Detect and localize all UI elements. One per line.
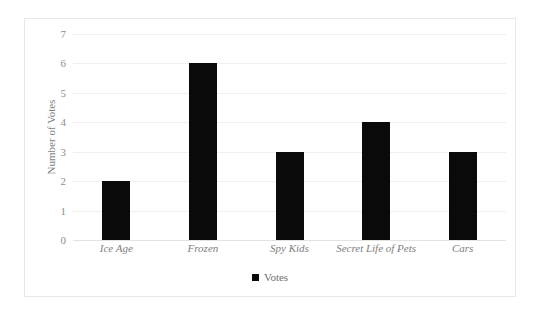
bar[interactable] bbox=[102, 181, 130, 240]
x-axis-category-labels: Ice AgeFrozenSpy KidsSecret Life of Pets… bbox=[73, 242, 506, 262]
y-axis-tick-label: 1 bbox=[61, 205, 67, 217]
y-axis-tick-label: 2 bbox=[61, 175, 67, 187]
gridline bbox=[73, 240, 506, 241]
bar[interactable] bbox=[189, 63, 217, 240]
y-axis-title: Number of Votes bbox=[41, 34, 61, 240]
x-axis-category-label: Cars bbox=[452, 242, 473, 254]
x-axis-category-label: Spy Kids bbox=[270, 242, 309, 254]
plot-area: 76543210 bbox=[73, 34, 506, 240]
bar-series-votes bbox=[73, 34, 506, 240]
bar[interactable] bbox=[276, 152, 304, 240]
y-axis-tick-label: 4 bbox=[61, 116, 67, 128]
x-axis-category-label: Ice Age bbox=[100, 242, 133, 254]
y-axis-title-label: Number of Votes bbox=[45, 100, 57, 175]
chart-container: Number of Votes 76543210 Ice AgeFrozenSp… bbox=[24, 18, 516, 297]
y-axis-tick-label: 0 bbox=[61, 234, 67, 246]
y-axis-tick-label: 3 bbox=[61, 146, 67, 158]
legend-swatch-icon bbox=[252, 274, 259, 281]
x-axis-category-label: Secret Life of Pets bbox=[336, 242, 416, 254]
bar[interactable] bbox=[449, 152, 477, 240]
y-axis-tick-label: 7 bbox=[61, 28, 67, 40]
x-axis-category-label: Frozen bbox=[188, 242, 219, 254]
y-axis-tick-label: 6 bbox=[61, 57, 67, 69]
bar[interactable] bbox=[362, 122, 390, 240]
legend-label-votes: Votes bbox=[264, 271, 288, 283]
y-axis-tick-label: 5 bbox=[61, 87, 67, 99]
chart-legend: Votes bbox=[25, 271, 515, 283]
